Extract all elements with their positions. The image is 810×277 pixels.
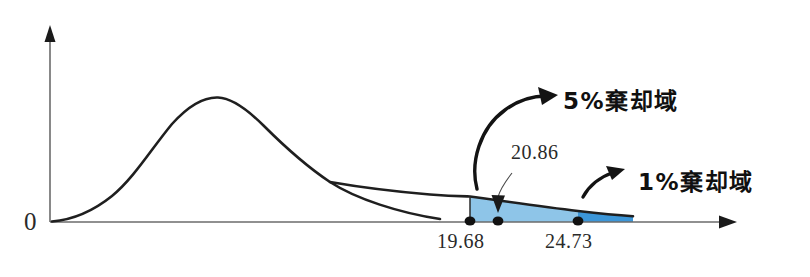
x-axis-arrowhead [719,216,737,229]
y-axis-arrowhead [45,25,56,42]
origin-label: 0 [24,208,37,236]
leader-line-20-86 [498,173,512,197]
five-percent-rejection-label: 5%棄却域 [563,82,679,116]
test-statistic-label: 20.86 [511,141,559,164]
one-percent-rejection-label: 1%棄却域 [638,163,754,197]
tick-label-24-73: 24.73 [545,230,593,253]
axis-dot-19-68 [465,216,476,225]
axis-dot-20-86 [493,216,504,225]
chi-square-rejection-region-figure: 0 5%棄却域 1%棄却域 20.86 19.68 24.73 [0,0,810,277]
density-curve [52,97,440,221]
chart-canvas [0,0,810,277]
five-percent-arrowhead [538,87,558,105]
one-percent-callout-arrow [583,173,612,197]
tick-label-19-68: 19.68 [437,230,485,253]
axis-dot-24-73 [573,216,584,225]
